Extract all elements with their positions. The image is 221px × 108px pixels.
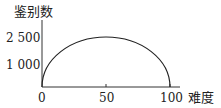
x-tick-label-50: 50 [99, 92, 114, 104]
x-axis-title: 难度 [188, 92, 214, 104]
x-tick-label-0: 0 [38, 92, 46, 104]
x-tick-label-100: 100 [160, 92, 183, 104]
y-axis-title: 鉴别数 [14, 6, 53, 18]
data-curve [42, 37, 170, 87]
y-tick-label-2500: 2 500 [6, 32, 40, 44]
y-tick-label-1000: 1 000 [6, 59, 40, 71]
